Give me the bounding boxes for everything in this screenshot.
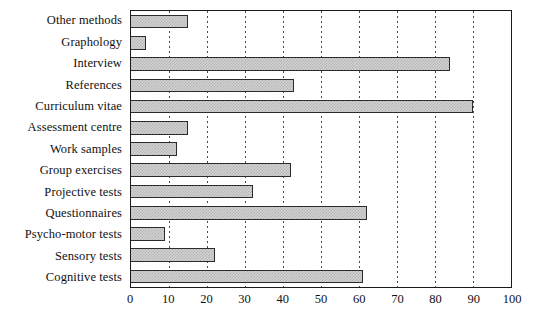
plot-area [130,10,512,288]
bar-row [131,245,511,266]
y-axis-category-labels: Other methodsGraphologyInterviewReferenc… [0,10,126,288]
bar [131,142,177,156]
bar-row [131,266,511,287]
y-axis-label: Graphology [0,31,126,52]
bar [131,15,188,29]
bar [131,206,367,220]
x-axis-tick-label: 60 [353,292,366,307]
bar-row [131,223,511,244]
x-axis-tick-label: 20 [200,292,213,307]
bar [131,185,253,199]
bar-row [131,117,511,138]
bar-row [131,202,511,223]
bar [131,121,188,135]
bar-row [131,96,511,117]
y-axis-label: Assessment centre [0,117,126,138]
x-axis-tick-labels: 0102030405060708090100 [130,292,512,312]
bar [131,57,450,71]
x-axis-tick-label: 10 [162,292,175,307]
x-axis-tick-label: 70 [391,292,404,307]
y-axis-label: Psycho-motor tests [0,224,126,245]
y-axis-label: References [0,74,126,95]
bar-row [131,160,511,181]
y-axis-label: Other methods [0,10,126,31]
y-axis-label: Projective tests [0,181,126,202]
bar-row [131,53,511,74]
x-axis-tick-label: 50 [315,292,328,307]
x-axis-tick-label: 90 [468,292,481,307]
y-axis-label: Questionnaires [0,203,126,224]
x-axis-tick-label: 100 [503,292,522,307]
y-axis-label: Work samples [0,138,126,159]
bar-row [131,75,511,96]
y-axis-label: Cognitive tests [0,267,126,288]
bar-row [131,138,511,159]
bar-row [131,11,511,32]
x-axis-tick-label: 80 [429,292,442,307]
bar [131,270,363,284]
bar [131,248,215,262]
bar-chart: Other methodsGraphologyInterviewReferenc… [0,0,533,316]
y-axis-label: Interview [0,53,126,74]
bar-series [131,11,511,287]
bar [131,79,294,93]
x-axis-tick-label: 40 [277,292,290,307]
y-axis-label: Group exercises [0,160,126,181]
bar [131,163,291,177]
bar-row [131,32,511,53]
bar [131,36,146,50]
bar [131,227,165,241]
bar-row [131,181,511,202]
x-axis-tick-label: 30 [238,292,251,307]
y-axis-label: Sensory tests [0,245,126,266]
y-axis-label: Curriculum vitae [0,96,126,117]
x-axis-tick-label: 0 [127,292,133,307]
bar [131,100,473,114]
